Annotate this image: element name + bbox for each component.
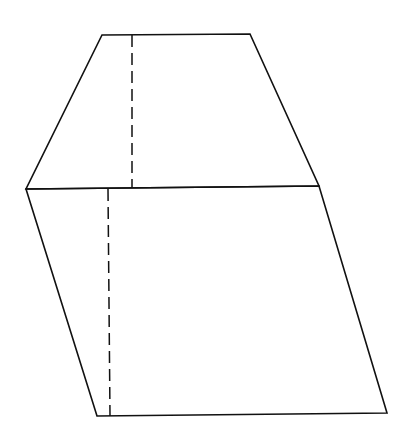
geometry-diagram [0,0,403,442]
bottom-parallelogram [26,186,387,416]
lower-dashed-height-line [108,189,110,416]
top-trapezoid [26,34,319,189]
